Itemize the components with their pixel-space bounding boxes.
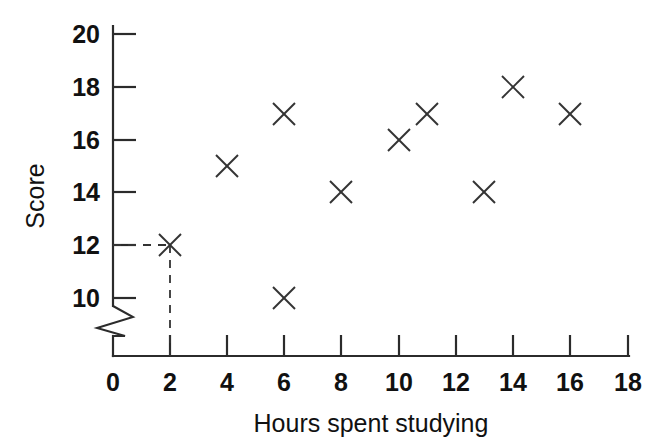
data-point-marker [502,76,524,98]
x-tick-label-8: 8 [334,368,348,396]
y-tick-label-20: 20 [72,20,100,48]
guide-lines-annotation [113,245,170,356]
x-axis-title: Hours spent studying [254,409,489,437]
scatter-plot-figure: 20 18 16 14 12 10 0 2 4 6 8 10 12 [0,0,659,446]
x-tick-labels: 0 2 4 6 8 10 12 14 16 18 [106,368,642,396]
data-point-marker [216,155,238,177]
x-tick-label-6: 6 [277,368,291,396]
axes-group [113,26,629,356]
plot-canvas: 20 18 16 14 12 10 0 2 4 6 8 10 12 [0,0,659,446]
x-tick-label-10: 10 [385,368,413,396]
y-tick-labels: 20 18 16 14 12 10 [72,20,100,312]
data-point-marker [273,103,295,125]
x-tick-label-12: 12 [442,368,470,396]
y-tick-label-14: 14 [72,178,100,206]
x-tick-label-4: 4 [220,368,234,396]
x-tick-label-2: 2 [163,368,177,396]
data-point-marker [416,103,438,125]
y-tick-label-18: 18 [72,73,100,101]
data-point-marker [473,181,495,203]
y-tick-marks [113,34,136,298]
x-tick-label-18: 18 [614,368,642,396]
y-tick-label-12: 12 [72,231,100,259]
data-point-marker [559,103,581,125]
y-axis-break-zigzag-icon [97,306,133,336]
data-point-marker [330,181,352,203]
x-tick-label-0: 0 [106,368,120,396]
data-point-marker [388,129,410,151]
data-point-marker [273,287,295,309]
y-tick-label-16: 16 [72,126,100,154]
y-axis-title: Score [21,163,49,228]
x-tick-marks [170,335,628,356]
data-points-group [159,76,581,309]
x-tick-label-16: 16 [556,368,584,396]
y-tick-label-10: 10 [72,284,100,312]
x-tick-label-14: 14 [499,368,527,396]
